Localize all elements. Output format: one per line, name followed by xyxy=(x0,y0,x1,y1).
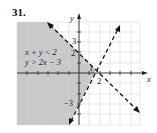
x-axis-label: x xyxy=(146,74,151,84)
line2-arrow-end-icon xyxy=(115,25,120,32)
y-tick-label-neg3: −3 xyxy=(64,98,73,108)
shaded-region xyxy=(17,22,96,125)
y-tick-label-2: 2 xyxy=(71,48,75,58)
y-axis-label: y xyxy=(69,13,74,23)
inequality-graph: x + y < 2 y > 2x − 3 x y 3 2 −3 1 2 xyxy=(0,0,157,133)
line2-arrow-start-icon xyxy=(69,118,74,125)
inequality-1-label: x + y < 2 xyxy=(24,47,58,57)
y-tick-label-3: 3 xyxy=(72,36,76,46)
inequality-2-label: y > 2x − 3 xyxy=(24,57,61,67)
x-tick-label-2: 2 xyxy=(97,76,101,86)
y-axis-arrow-icon xyxy=(77,13,81,19)
x-tick-label-1: 1 xyxy=(89,63,93,73)
line1-arrow-end-icon xyxy=(133,106,140,113)
